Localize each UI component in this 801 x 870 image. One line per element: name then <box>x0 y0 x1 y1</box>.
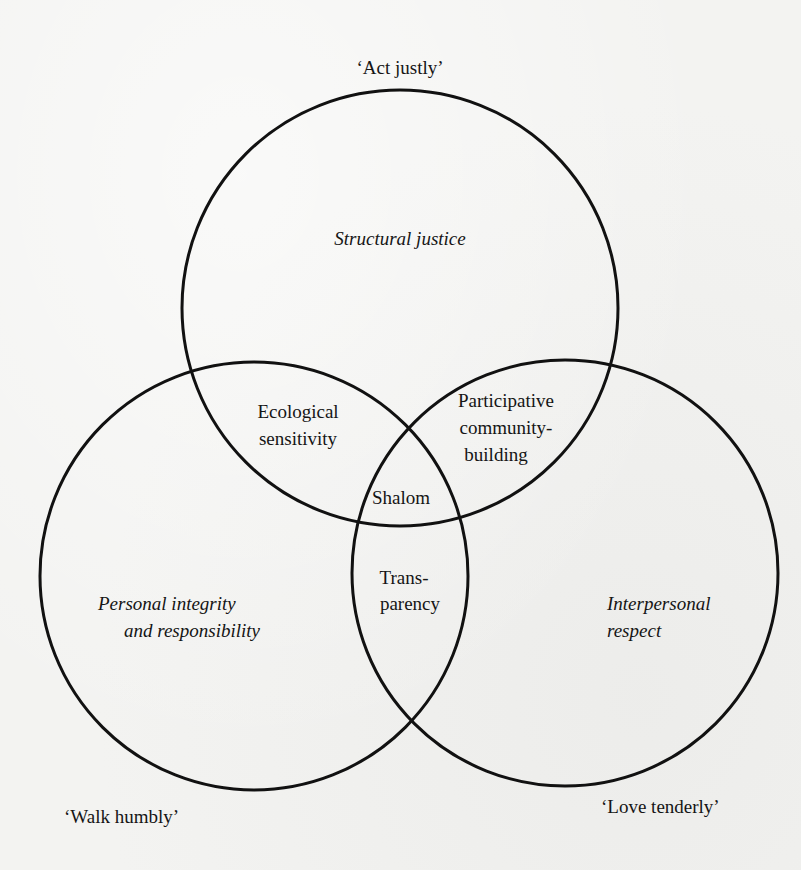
label-personal-integrity-line2: and responsibility <box>124 619 260 642</box>
venn-diagram <box>0 0 801 870</box>
label-act-justly: ‘Act justly’ <box>356 56 443 79</box>
label-interpersonal-line1: Interpersonal <box>607 592 710 615</box>
label-walk-humbly: ‘Walk humbly’ <box>64 805 179 828</box>
label-structural-justice: Structural justice <box>334 227 465 250</box>
label-transparency-line1: Trans- <box>380 566 429 589</box>
label-transparency-line2: parency <box>380 592 440 615</box>
label-participative-line3: building <box>464 443 527 466</box>
label-love-tenderly: ‘Love tenderly’ <box>601 795 720 818</box>
circle-act-justly <box>182 90 618 526</box>
label-ecological-line1: Ecological <box>257 400 338 423</box>
label-shalom: Shalom <box>372 486 430 509</box>
label-ecological-line2: sensitivity <box>259 427 337 450</box>
label-personal-integrity-line1: Personal integrity <box>98 592 236 615</box>
label-participative-line1: Participative <box>458 389 554 412</box>
label-interpersonal-line2: respect <box>607 619 661 642</box>
label-participative-line2: community- <box>460 416 553 439</box>
